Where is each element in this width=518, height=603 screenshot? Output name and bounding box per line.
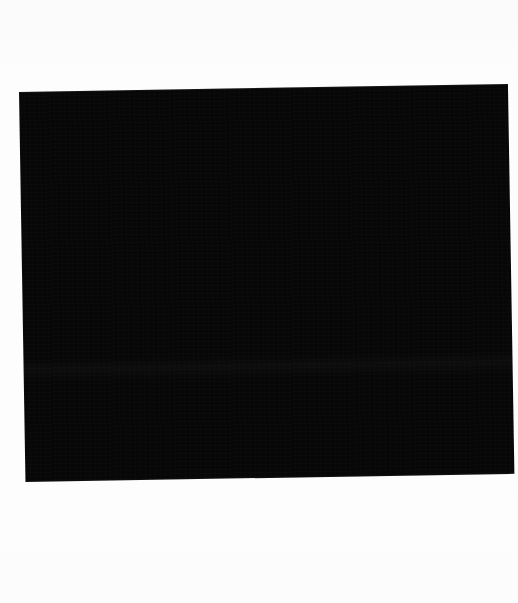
black-plate-container xyxy=(19,92,508,488)
compression-noise-overlay xyxy=(19,84,514,482)
scanned-page: Scanned page containing a single large s… xyxy=(0,0,518,603)
black-rectangle xyxy=(19,84,514,482)
black-rectangle-content xyxy=(18,91,19,92)
plate-edge-softening xyxy=(19,84,514,482)
scanner-band-artifact xyxy=(23,352,512,382)
